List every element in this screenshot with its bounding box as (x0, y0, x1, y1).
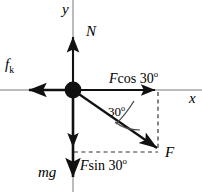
force-x-component-text: cos 30 (118, 71, 154, 86)
force-diagram: y x N fk mg F Fcos 30o Fsin 30o 30o (0, 0, 202, 192)
weight-force-label: mg (38, 165, 56, 180)
force-x-component-symbol: F (109, 71, 118, 86)
force-y-component-label: Fsin 30o (80, 157, 127, 173)
applied-force-label: F (165, 145, 174, 160)
force-y-component-symbol: F (80, 158, 89, 173)
force-x-component-label: Fcos 30o (109, 70, 158, 86)
angle-degree-symbol: o (121, 104, 125, 113)
force-y-component-text: sin 30 (89, 158, 123, 173)
angle-arc-tail (115, 122, 140, 130)
friction-force-label: fk (5, 57, 14, 75)
force-y-component-degree: o (122, 156, 126, 166)
x-axis-label: x (189, 91, 196, 106)
y-axis-label: y (62, 2, 69, 17)
angle-value: 30 (108, 104, 121, 119)
friction-force-label-subscript: k (9, 64, 14, 75)
force-x-component-degree: o (154, 69, 158, 79)
normal-force-label: N (86, 24, 96, 39)
point-mass-dot (65, 82, 82, 99)
angle-label: 30o (108, 105, 125, 118)
